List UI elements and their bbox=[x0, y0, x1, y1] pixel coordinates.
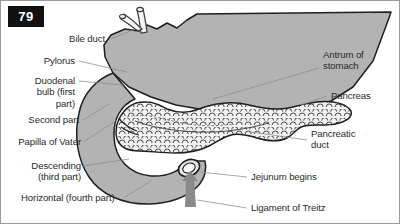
label-pancreatic-duct: Pancreatic duct bbox=[311, 128, 391, 151]
label-antrum-of-stomach: Antrum of stomach bbox=[323, 49, 399, 72]
label-descending: Descending (third part) bbox=[3, 160, 81, 183]
leader-treitz bbox=[197, 200, 247, 208]
label-jejunum-begins: Jejunum begins bbox=[251, 171, 361, 182]
label-papilla-of-vater: Papilla of Vater bbox=[3, 136, 81, 147]
leader-jejunum bbox=[200, 172, 247, 177]
figure-number-badge: 79 bbox=[8, 6, 44, 27]
label-ligament-of-treitz: Ligament of Treitz bbox=[251, 202, 371, 213]
label-duodenal-bulb: Duodenal bulb (first part) bbox=[3, 75, 75, 109]
label-horizontal: Horizontal (fourth part) bbox=[21, 192, 141, 203]
label-pylorus: Pylorus bbox=[5, 55, 75, 66]
label-second-part: Second part bbox=[3, 114, 79, 125]
anatomy-figure: 79 bbox=[0, 0, 400, 224]
label-pancreas: Pancreas bbox=[331, 90, 399, 101]
label-bile-duct: Bile duct bbox=[11, 33, 105, 44]
